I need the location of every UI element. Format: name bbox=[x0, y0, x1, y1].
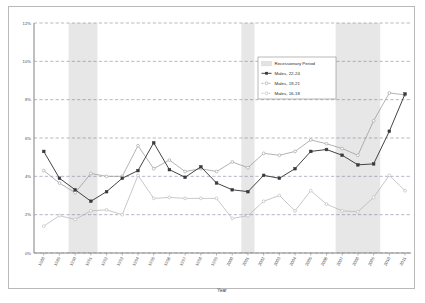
data-point bbox=[294, 209, 297, 212]
y-tick-label: 10% bbox=[23, 59, 32, 64]
x-tick-label-group: 1988198919901991199219931994199519961997… bbox=[37, 256, 407, 267]
data-point bbox=[42, 225, 45, 228]
data-point bbox=[89, 209, 92, 212]
y-tick-label: 2% bbox=[25, 212, 31, 217]
x-tick-label: 1988 bbox=[37, 256, 46, 267]
data-point bbox=[231, 161, 234, 164]
line-chart: 0%2%4%6%8%10%12% 19881989199019911992199… bbox=[0, 0, 425, 303]
data-point bbox=[137, 144, 140, 147]
data-point bbox=[105, 190, 108, 193]
data-point bbox=[325, 203, 328, 206]
data-point bbox=[42, 150, 45, 153]
x-tick-label: 2010 bbox=[383, 256, 392, 267]
data-point bbox=[58, 177, 61, 180]
legend-marker-0 bbox=[265, 72, 268, 75]
data-point bbox=[215, 182, 218, 185]
data-point bbox=[231, 217, 234, 220]
data-point bbox=[262, 200, 265, 203]
data-point bbox=[247, 214, 250, 217]
x-tick-label: 2011 bbox=[398, 256, 407, 267]
x-tick-label: 2002 bbox=[257, 256, 266, 267]
data-point bbox=[341, 154, 344, 157]
data-point bbox=[74, 218, 77, 221]
data-point bbox=[404, 93, 407, 96]
data-point bbox=[215, 197, 218, 200]
data-point bbox=[168, 159, 171, 162]
data-point bbox=[74, 188, 77, 191]
x-tick-label: 1991 bbox=[84, 256, 93, 267]
y-tick-label-group: 0%2%4%6%8%10%12% bbox=[23, 21, 32, 256]
data-point bbox=[168, 196, 171, 199]
chart-legend: Recessionary PeriodMales, 22-24Males, 19… bbox=[258, 57, 336, 99]
data-point bbox=[58, 214, 61, 217]
data-point bbox=[58, 182, 61, 185]
data-point bbox=[199, 165, 202, 168]
data-point bbox=[137, 174, 140, 177]
data-point bbox=[152, 167, 155, 170]
data-point bbox=[215, 170, 218, 173]
data-point bbox=[341, 147, 344, 150]
data-point bbox=[89, 200, 92, 203]
data-point bbox=[309, 189, 312, 192]
data-point bbox=[341, 209, 344, 212]
data-point bbox=[388, 92, 391, 95]
x-tick-label: 2006 bbox=[320, 256, 329, 267]
x-tick-label: 2007 bbox=[335, 256, 344, 267]
x-tick-label: 2005 bbox=[304, 256, 313, 267]
legend-label-recession: Recessionary Period bbox=[275, 61, 316, 66]
data-point bbox=[231, 188, 234, 191]
data-point bbox=[278, 154, 281, 157]
x-tick-label: 1990 bbox=[68, 256, 77, 267]
data-point bbox=[247, 166, 250, 169]
data-point bbox=[262, 174, 265, 177]
legend-swatch-recession bbox=[262, 61, 272, 66]
x-tick-label: 1995 bbox=[147, 256, 156, 267]
x-tick-label: 2000 bbox=[226, 256, 235, 267]
x-tick-label: 2003 bbox=[273, 256, 282, 267]
y-tick-label: 4% bbox=[25, 174, 31, 179]
x-tick-label: 1997 bbox=[178, 256, 187, 267]
data-point bbox=[74, 191, 77, 194]
data-point bbox=[309, 150, 312, 153]
data-point bbox=[121, 177, 124, 180]
data-point bbox=[184, 176, 187, 179]
data-point bbox=[294, 167, 297, 170]
data-point bbox=[404, 189, 407, 192]
x-axis-title: Year bbox=[217, 288, 227, 293]
data-point bbox=[152, 141, 155, 144]
data-point bbox=[388, 130, 391, 133]
data-point bbox=[309, 139, 312, 142]
legend-label-2: Males, 16-18 bbox=[275, 91, 301, 96]
x-tick-label: 1993 bbox=[116, 256, 125, 267]
x-tick-label: 1999 bbox=[210, 256, 219, 267]
x-tick-label: 1994 bbox=[131, 256, 140, 267]
data-point bbox=[137, 169, 140, 172]
data-point bbox=[294, 150, 297, 153]
data-point bbox=[121, 213, 124, 216]
legend-label-1: Males, 19-21 bbox=[275, 81, 301, 86]
data-point bbox=[325, 148, 328, 151]
data-point bbox=[372, 196, 375, 199]
y-tick-label: 8% bbox=[25, 97, 31, 102]
data-point bbox=[168, 168, 171, 171]
data-point bbox=[152, 197, 155, 200]
data-point bbox=[105, 175, 108, 178]
x-tick-label: 2001 bbox=[241, 256, 250, 267]
x-tick-label: 1989 bbox=[53, 256, 62, 267]
data-point bbox=[357, 163, 360, 166]
y-tick-label: 0% bbox=[25, 251, 31, 256]
x-tick-label: 2008 bbox=[351, 256, 360, 267]
data-point bbox=[184, 197, 187, 200]
y-tick-label: 6% bbox=[25, 136, 31, 141]
data-point bbox=[325, 142, 328, 145]
data-point bbox=[42, 169, 45, 172]
data-point bbox=[357, 210, 360, 213]
data-point bbox=[89, 172, 92, 175]
data-point bbox=[278, 194, 281, 197]
legend-label-0: Males, 22-24 bbox=[275, 71, 301, 76]
data-point bbox=[262, 152, 265, 155]
legend-marker-1 bbox=[265, 82, 268, 85]
x-tick-label: 1992 bbox=[100, 256, 109, 267]
data-point bbox=[357, 154, 360, 157]
x-tick-label: 1998 bbox=[194, 256, 203, 267]
